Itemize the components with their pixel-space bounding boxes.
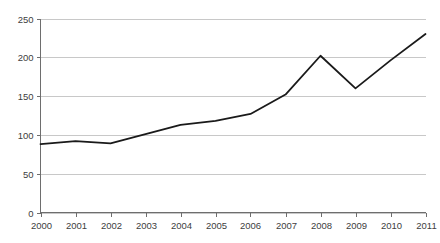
y-tick-label: 200 [18, 52, 34, 63]
x-tick-label: 2003 [136, 220, 157, 231]
x-tick-label: 2006 [240, 220, 261, 231]
x-tick-label: 2002 [101, 220, 122, 231]
y-tick-label: 50 [23, 169, 34, 180]
y-tick-label: 100 [18, 130, 34, 141]
chart-canvas: 050100150200250 200020012002200320042005… [0, 0, 440, 243]
y-tick-label: 250 [18, 14, 34, 25]
x-tick-label: 2000 [31, 220, 52, 231]
x-tick-label: 2005 [206, 220, 227, 231]
x-tick-label: 2009 [346, 220, 367, 231]
chart-background [0, 0, 440, 243]
x-tick-label: 2007 [276, 220, 297, 231]
x-tick-label: 2004 [171, 220, 192, 231]
x-tick-label: 2010 [381, 220, 402, 231]
x-tick-label: 2001 [66, 220, 87, 231]
x-tick-label: 2011 [416, 220, 436, 231]
x-tick-label: 2008 [311, 220, 332, 231]
y-tick-label: 150 [18, 91, 34, 102]
line-chart: 050100150200250 200020012002200320042005… [0, 0, 440, 243]
y-tick-label: 0 [28, 208, 33, 219]
